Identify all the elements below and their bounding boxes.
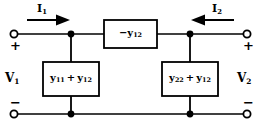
terminal-top-left [10,30,17,37]
current-i2-subscript: 2 [217,8,222,16]
shunt-right-element-label: y22+y12 [162,73,218,84]
terminal-bottom-right [243,110,250,117]
shunt-left-term2-subscript: 12 [83,76,92,84]
terminal-bottom-left [10,110,17,117]
voltage-v1-subscript: 1 [14,77,19,86]
voltage-v2-symbol: V [237,71,246,85]
shunt-right-term1-subscript: 22 [175,76,184,84]
current-arrow-i1 [27,15,70,26]
polarity-plus-right: + [243,39,254,52]
current-i1-subscript: 1 [42,8,47,16]
series-subscript: 12 [133,31,142,39]
polarity-minus-left: − [10,96,21,109]
junction-dot-bottom-right [187,111,194,118]
shunt-left-term1-subscript: 11 [56,76,65,84]
current-arrow-i2 [191,15,234,26]
polarity-minus-right: − [243,96,254,109]
terminal-top-right [243,30,250,37]
series-element-label: −y12 [104,28,157,39]
voltage-label-v2: V2 [237,72,252,85]
shunt-right-term2-subscript: 12 [202,76,211,84]
voltage-v1-symbol: V [5,71,14,85]
current-label-i2: I2 [212,3,222,15]
shunt-left-operator: + [65,72,77,83]
junction-dot-bottom-left [68,111,75,118]
shunt-right-operator: + [184,72,196,83]
polarity-plus-left: + [10,39,21,52]
current-label-i1: I1 [37,3,47,15]
circuit-diagram: I1 I2 + − + − V1 V2 −y12 y11+y12 y22+y12 [0,0,261,133]
junction-dot-top-left [68,31,75,38]
circuit-schematic-svg [0,0,261,133]
voltage-v2-subscript: 2 [246,77,251,86]
shunt-left-element-label: y11+y12 [43,73,99,84]
junction-dot-top-right [187,31,194,38]
voltage-label-v1: V1 [5,72,20,85]
